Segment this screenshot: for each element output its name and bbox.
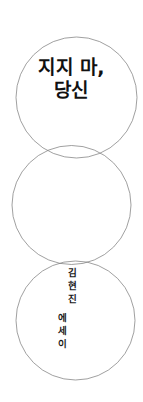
circle-middle xyxy=(12,146,131,265)
cover-title: 지지 마, 당신 xyxy=(0,56,143,102)
title-line-1: 지지 마, xyxy=(0,56,143,79)
genre-label: 에세이 xyxy=(56,313,66,353)
cover-credits: 김현진 에세이 xyxy=(56,268,76,353)
title-line-2: 당신 xyxy=(0,79,143,102)
author-name: 김현진 xyxy=(67,268,77,308)
book-cover: 지지 마, 당신 김현진 에세이 xyxy=(0,0,143,402)
